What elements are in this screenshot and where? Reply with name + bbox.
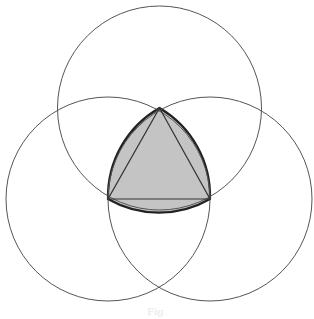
reuleaux-triangle-region <box>108 108 210 213</box>
reuleaux-diagram <box>0 0 314 319</box>
figure-caption: Fig. <box>0 306 314 317</box>
